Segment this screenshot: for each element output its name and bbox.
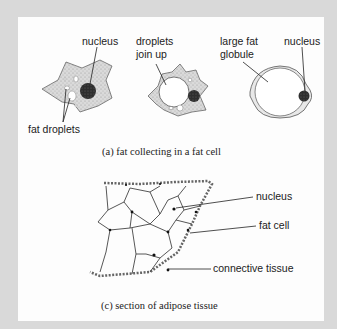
fat-cell-stage-3 <box>250 66 312 118</box>
label-large-fat-2: globule <box>220 48 254 60</box>
caption-c: (c) section of adipose tissue <box>101 300 218 312</box>
adipose-tissue-section <box>90 181 212 276</box>
label-connective-tissue: connective tissue <box>213 262 294 274</box>
label-nucleus-c: nucleus <box>256 190 292 202</box>
label-nucleus-a2: nucleus <box>284 35 320 47</box>
label-fat-cell: fat cell <box>259 219 289 231</box>
adipose-diagram: nucleus fat droplets droplets join up la… <box>0 0 337 329</box>
label-fat-droplets: fat droplets <box>28 123 80 135</box>
tissue-nuclei <box>109 183 198 272</box>
fat-cell-stage-2 <box>148 64 208 116</box>
nucleus-icon <box>80 83 96 99</box>
nucleus-icon <box>299 91 310 102</box>
label-droplets-join-2: join up <box>135 48 167 60</box>
fat-cell-stage-1 <box>42 60 112 112</box>
caption-a: (a) fat collecting in a fat cell <box>102 146 221 158</box>
label-large-fat-1: large fat <box>220 35 258 47</box>
label-droplets-join-1: droplets <box>136 35 173 47</box>
label-nucleus-a1: nucleus <box>82 35 118 47</box>
nucleus-icon <box>188 90 200 102</box>
